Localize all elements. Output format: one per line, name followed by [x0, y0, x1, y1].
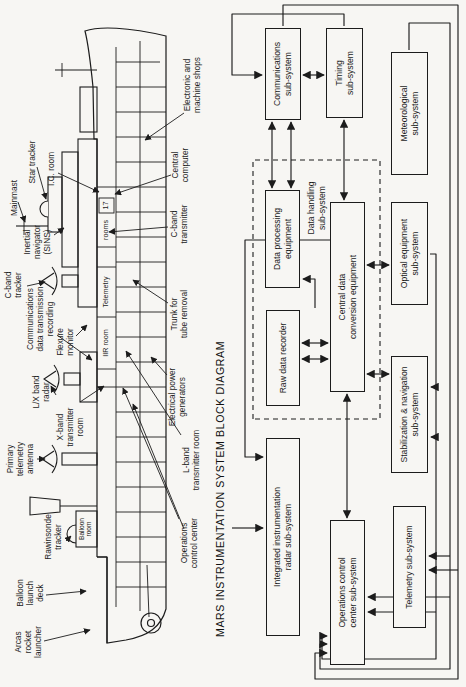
box-data-processing-equipment: Data processing equipment: [265, 190, 300, 288]
callout-lx-band-radar: L/X band radar: [32, 367, 52, 417]
box-stabilization-navigation-subsystem: Stabilization & navigation sub-system: [391, 356, 428, 473]
compartment-telemetry: Telemetry: [102, 269, 110, 315]
callout-flexure-monitor: Flexure monitor: [56, 322, 76, 362]
rotated-canvas: MARS INSTRUMENTATION SYSTEM BLOCK DIAGRA…: [0, 0, 466, 687]
callout-electronic-machine-shops: Electronic and machine shops: [183, 46, 203, 124]
callout-cband-tracker: C-band tracker: [4, 263, 24, 307]
callout-rawinsonde-tracker: Rawinsonde tracker: [44, 509, 64, 565]
compartment-balloon-room: Balloon room: [79, 512, 93, 546]
callout-trunk-tube-removal: Trunk for tube removal: [170, 283, 190, 345]
callout-inertial-navigator-sins: Inertial navigator (SINS): [23, 219, 52, 265]
callout-mainmast: Mainmast: [10, 174, 20, 222]
callout-primary-telemetry-antenna: Primary telemetry antenna: [6, 433, 35, 485]
box-timing-subsystem: Timing sub-system: [326, 28, 363, 118]
callout-cband-transmitter: C-band transmitter: [170, 199, 190, 249]
box-optical-equipment-subsystem: Optical equipment sub-system: [391, 202, 428, 305]
label-data-handling-subsystem: Data handling sub-system: [306, 173, 327, 243]
figure-title: MARS INSTRUMENTATION SYSTEM BLOCK DIAGRA…: [214, 341, 226, 637]
scanned-figure-page: MARS INSTRUMENTATION SYSTEM BLOCK DIAGRA…: [0, 0, 466, 687]
box-communications-subsystem: Communications sub-system: [265, 28, 301, 120]
compartment-rooms: rooms: [102, 215, 110, 245]
box-central-data-conversion-equipment: Central data conversion equipment: [330, 202, 365, 392]
callout-ic-room: I.C. room: [47, 146, 57, 192]
callout-balloon-launch-deck: Balloon launch deck: [16, 571, 45, 615]
box-integrated-instrumentation-radar-subsystem: Integrated instrumentation radar sub-sys…: [266, 438, 300, 636]
box-telemetry-subsystem: Telemetry sub-system: [393, 506, 426, 628]
star-tracker-dome: [40, 201, 48, 217]
compartment-17: 17: [102, 198, 110, 213]
compartment-iir-room: IIR room: [102, 319, 110, 367]
rawinsonde-dome: [67, 525, 76, 543]
callout-operations-control-center: Operations control center: [180, 507, 200, 579]
box-meteorological-subsystem: Meteorological sub-system: [391, 52, 428, 175]
box-raw-data-recorder: Raw data recorder: [266, 310, 300, 406]
callout-central-computer: Central computer: [171, 143, 191, 187]
callout-lband-transmitter-room: L-band transmitter room: [182, 421, 202, 499]
callout-arcas-rocket-launcher: Arcas rocket launcher: [14, 619, 43, 665]
callout-communications-data-transmission-recording: Communications data transmission recordi…: [26, 281, 55, 357]
callout-xband-transmitter-room: X-band transmitter room: [56, 399, 85, 455]
callout-star-tracker: Star tracker: [28, 135, 38, 189]
box-operations-control-center-subsystem: Operations control center sub-system: [330, 520, 365, 665]
